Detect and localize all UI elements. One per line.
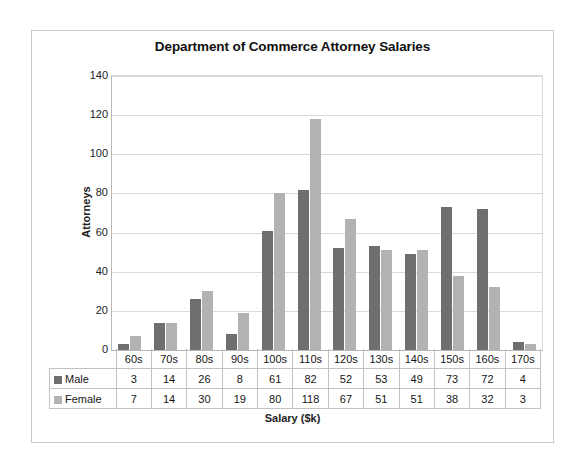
table-cell-male-120s: 52 bbox=[328, 369, 363, 389]
bar-male-120s[interactable] bbox=[333, 248, 344, 350]
table-header-100s: 100s bbox=[258, 349, 293, 369]
table-row: Male314268618252534973724 bbox=[50, 369, 541, 389]
y-axis-tick-20: 20 bbox=[56, 304, 108, 316]
legend-label-male: Male bbox=[65, 373, 89, 385]
bar-male-90s[interactable] bbox=[226, 334, 237, 350]
legend-item-male: Male bbox=[50, 369, 117, 389]
table-header-170s: 170s bbox=[505, 349, 540, 369]
bar-male-70s[interactable] bbox=[154, 323, 165, 350]
table-header-150s: 150s bbox=[434, 349, 469, 369]
table-cell-female-70s: 14 bbox=[151, 389, 186, 409]
legend-item-female: Female bbox=[50, 389, 117, 409]
table-cell-female-130s: 51 bbox=[364, 389, 399, 409]
bar-male-110s[interactable] bbox=[298, 190, 309, 350]
table-cell-male-130s: 53 bbox=[364, 369, 399, 389]
bar-group-60s bbox=[112, 76, 148, 350]
table-cell-female-140s: 51 bbox=[399, 389, 434, 409]
chart-container: Department of Commerce Attorney Salaries… bbox=[31, 30, 554, 443]
table-corner-cell bbox=[50, 349, 117, 369]
bar-male-80s[interactable] bbox=[190, 299, 201, 350]
y-axis-tick-140: 140 bbox=[56, 69, 108, 81]
bar-group-120s bbox=[327, 76, 363, 350]
data-table: 60s70s80s90s100s110s120s130s140s150s160s… bbox=[49, 349, 541, 409]
table-cell-male-170s: 4 bbox=[505, 369, 540, 389]
table-cell-male-70s: 14 bbox=[151, 369, 186, 389]
legend-swatch-icon-female bbox=[54, 396, 62, 404]
bar-group-170s bbox=[506, 76, 542, 350]
bar-female-110s[interactable] bbox=[310, 119, 321, 350]
bar-group-130s bbox=[363, 76, 399, 350]
bar-male-160s[interactable] bbox=[477, 209, 488, 350]
table-cell-male-160s: 72 bbox=[470, 369, 505, 389]
bar-group-150s bbox=[434, 76, 470, 350]
table-cell-male-80s: 26 bbox=[187, 369, 222, 389]
bar-group-100s bbox=[255, 76, 291, 350]
table-header-80s: 80s bbox=[187, 349, 222, 369]
bar-female-160s[interactable] bbox=[489, 287, 500, 350]
bar-group-140s bbox=[399, 76, 435, 350]
table-cell-female-150s: 38 bbox=[434, 389, 469, 409]
bar-female-100s[interactable] bbox=[274, 193, 285, 350]
table-header-60s: 60s bbox=[116, 349, 151, 369]
bar-female-120s[interactable] bbox=[345, 219, 356, 350]
bar-group-90s bbox=[219, 76, 255, 350]
table-cell-male-90s: 8 bbox=[222, 369, 257, 389]
table-header-160s: 160s bbox=[470, 349, 505, 369]
table-header-row: 60s70s80s90s100s110s120s130s140s150s160s… bbox=[50, 349, 541, 369]
table-cell-male-100s: 61 bbox=[258, 369, 293, 389]
chart-title: Department of Commerce Attorney Salaries bbox=[32, 39, 553, 54]
bar-series-container bbox=[112, 76, 542, 350]
y-axis-tick-labels: 140120100806040200 bbox=[56, 75, 108, 349]
table-header-140s: 140s bbox=[399, 349, 434, 369]
bar-female-90s[interactable] bbox=[238, 313, 249, 350]
table-header-70s: 70s bbox=[151, 349, 186, 369]
bar-male-100s[interactable] bbox=[262, 231, 273, 350]
table-header-90s: 90s bbox=[222, 349, 257, 369]
x-axis-title: Salary ($k) bbox=[32, 412, 553, 424]
table-cell-female-170s: 3 bbox=[505, 389, 540, 409]
bar-group-110s bbox=[291, 76, 327, 350]
table-header-120s: 120s bbox=[328, 349, 363, 369]
bar-group-70s bbox=[148, 76, 184, 350]
table-cell-female-120s: 67 bbox=[328, 389, 363, 409]
table-row: Female71430198011867515138323 bbox=[50, 389, 541, 409]
bar-group-80s bbox=[184, 76, 220, 350]
y-axis-tick-120: 120 bbox=[56, 108, 108, 120]
y-axis-tick-60: 60 bbox=[56, 226, 108, 238]
table-cell-female-160s: 32 bbox=[470, 389, 505, 409]
bar-male-130s[interactable] bbox=[369, 246, 380, 350]
bar-group-160s bbox=[470, 76, 506, 350]
table-cell-male-150s: 73 bbox=[434, 369, 469, 389]
table-cell-male-110s: 82 bbox=[293, 369, 328, 389]
table-cell-female-80s: 30 bbox=[187, 389, 222, 409]
table-cell-female-90s: 19 bbox=[222, 389, 257, 409]
table-cell-female-100s: 80 bbox=[258, 389, 293, 409]
table-cell-female-110s: 118 bbox=[293, 389, 328, 409]
table-cell-male-60s: 3 bbox=[116, 369, 151, 389]
table-cell-male-140s: 49 bbox=[399, 369, 434, 389]
bar-female-130s[interactable] bbox=[381, 250, 392, 350]
bar-male-150s[interactable] bbox=[441, 207, 452, 350]
table-header-130s: 130s bbox=[364, 349, 399, 369]
y-axis-tick-80: 80 bbox=[56, 186, 108, 198]
legend-swatch-icon-male bbox=[54, 376, 62, 384]
bar-female-140s[interactable] bbox=[417, 250, 428, 350]
bar-female-150s[interactable] bbox=[453, 276, 464, 350]
bar-female-80s[interactable] bbox=[202, 291, 213, 350]
plot-area bbox=[111, 75, 543, 351]
table-cell-female-60s: 7 bbox=[116, 389, 151, 409]
y-axis-tick-40: 40 bbox=[56, 265, 108, 277]
bar-male-140s[interactable] bbox=[405, 254, 416, 350]
y-axis-tick-100: 100 bbox=[56, 147, 108, 159]
bar-female-60s[interactable] bbox=[130, 336, 141, 350]
legend-label-female: Female bbox=[65, 393, 102, 405]
bar-female-70s[interactable] bbox=[166, 323, 177, 350]
table-header-110s: 110s bbox=[293, 349, 328, 369]
